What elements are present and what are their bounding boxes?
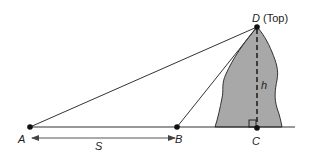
label-c: C: [252, 135, 260, 147]
mountain-shape: [215, 27, 282, 127]
diagram-canvas: A B C D (Top) h S: [0, 0, 309, 168]
label-height: h: [261, 79, 267, 91]
label-d: D: [252, 12, 260, 24]
label-top: (Top): [263, 12, 288, 24]
label-a: A: [17, 133, 25, 145]
point-c: [254, 125, 260, 131]
label-b: B: [175, 133, 182, 145]
point-a: [27, 124, 33, 130]
point-d: [254, 24, 260, 30]
point-b: [174, 124, 180, 130]
label-distance: S: [95, 140, 103, 152]
